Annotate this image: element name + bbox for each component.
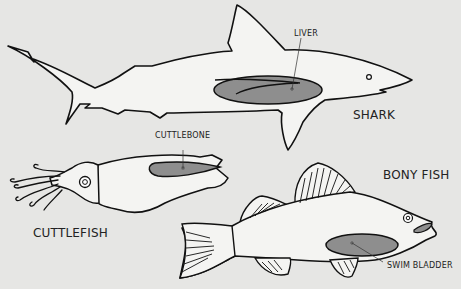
liver-label: LIVER <box>294 29 318 38</box>
shark-label: SHARK <box>353 108 395 122</box>
cuttlefish-illustration <box>10 150 228 212</box>
cuttlefish-tentacles <box>10 164 64 210</box>
shark-illustration <box>8 5 412 150</box>
shark-eye-icon <box>367 75 372 80</box>
cuttlefish-eye-icon <box>80 177 91 188</box>
bony-fish-eye-icon <box>404 214 413 223</box>
diagram-canvas <box>0 0 461 289</box>
cuttlefish-label: CUTTLEFISH <box>33 226 108 240</box>
bony-fish-label: BONY FISH <box>383 168 449 182</box>
cuttlefish-head <box>50 162 99 203</box>
cuttlebone-label: CUTTLEBONE <box>155 131 210 140</box>
bony-fish-tail <box>180 223 235 278</box>
shark-body <box>8 5 412 150</box>
swim-bladder-label: SWIM BLADDER <box>387 261 453 270</box>
swim-bladder-organ <box>326 234 398 256</box>
